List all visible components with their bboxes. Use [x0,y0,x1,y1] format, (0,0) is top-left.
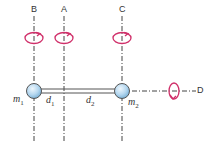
mass-m1-ball [27,84,42,99]
mass-m2-label: m2 [128,96,139,110]
distance-d1-label: d1 [46,94,55,108]
distance-d2-label: d2 [86,94,95,108]
mass-m1-label: m1 [13,93,24,107]
axis-d-label: D [197,85,204,95]
rotation-axes-diagram [0,0,210,141]
rod [38,89,118,93]
axis-b-label: B [31,4,37,14]
axis-a-label: A [61,4,67,14]
axis-c-label: C [119,4,126,14]
